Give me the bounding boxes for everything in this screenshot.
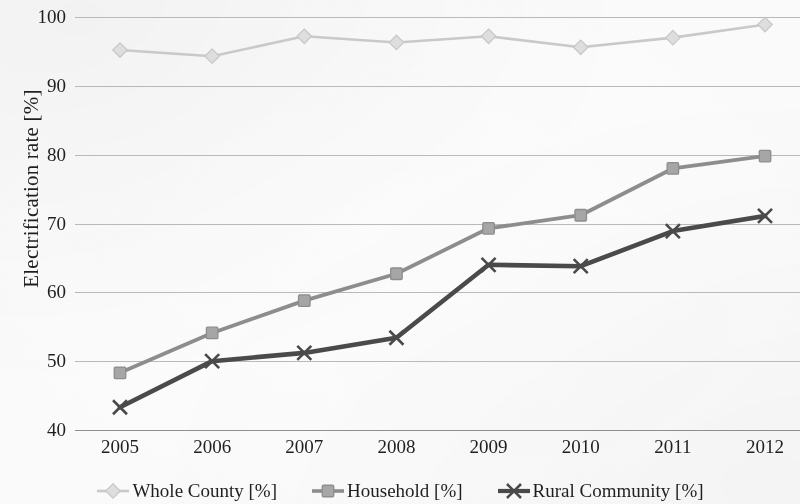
line-chart-figure: Electrification rate [%] 405060708090100… <box>0 0 800 504</box>
x-tick-label-2012: 2012 <box>725 437 800 457</box>
legend-label: Rural Community [%] <box>533 480 704 502</box>
x-axis-tick-labels: 20052006200720082009201020112012 <box>75 437 800 465</box>
legend-item-2[interactable]: Household [%] <box>311 480 463 502</box>
x-tick-label-2007: 2007 <box>264 437 344 457</box>
chart-legend: Whole County [%]Household [%]Rural Commu… <box>0 478 800 504</box>
series-2 <box>114 150 771 378</box>
legend-label: Whole County [%] <box>132 480 277 502</box>
x-tick-label-2005: 2005 <box>80 437 160 457</box>
diamond-marker-icon <box>96 482 130 500</box>
y-tick-label-80: 80 <box>22 145 66 164</box>
y-tick-label-60: 60 <box>22 282 66 301</box>
legend-item-1[interactable]: Whole County [%] <box>96 480 277 502</box>
x-tick-label-2009: 2009 <box>449 437 529 457</box>
x-tick-label-2010: 2010 <box>541 437 621 457</box>
y-tick-label-100: 100 <box>22 7 66 26</box>
legend-label: Household [%] <box>347 480 463 502</box>
series-3 <box>113 209 772 414</box>
plot-area <box>75 0 800 431</box>
cross-marker-icon <box>497 482 531 500</box>
square-marker-icon <box>311 482 345 500</box>
series-1 <box>113 17 772 63</box>
x-tick-label-2006: 2006 <box>172 437 252 457</box>
series-layer <box>75 0 800 431</box>
y-tick-label-40: 40 <box>22 420 66 439</box>
y-tick-label-90: 90 <box>22 76 66 95</box>
legend-item-3[interactable]: Rural Community [%] <box>497 480 704 502</box>
y-tick-label-50: 50 <box>22 351 66 370</box>
x-tick-label-2011: 2011 <box>633 437 713 457</box>
y-tick-label-70: 70 <box>22 214 66 233</box>
y-axis-tick-labels: 405060708090100 <box>14 0 66 504</box>
x-tick-label-2008: 2008 <box>356 437 436 457</box>
